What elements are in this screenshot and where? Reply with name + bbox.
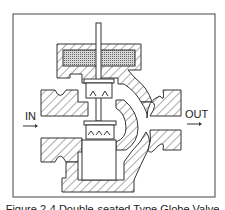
upper-plug-disc	[84, 79, 114, 83]
body-left-lower	[41, 138, 82, 162]
valve-chamber	[82, 140, 116, 180]
valve-diagram: IN OUT	[0, 0, 225, 210]
valve-cross-section	[0, 0, 225, 210]
center-web	[116, 100, 138, 150]
outlet-label: OUT	[185, 108, 208, 120]
figure-caption: Figure 2-4 Double-seated Type Globe Valv…	[0, 203, 225, 210]
body-left-upper	[41, 90, 88, 116]
body-right-lower	[148, 130, 181, 152]
outlet-arrow-head	[199, 122, 202, 126]
inlet-arrow-head	[35, 124, 38, 128]
lower-plug-disc	[84, 121, 116, 125]
valve-stem	[96, 23, 101, 121]
inlet-label: IN	[25, 110, 36, 122]
